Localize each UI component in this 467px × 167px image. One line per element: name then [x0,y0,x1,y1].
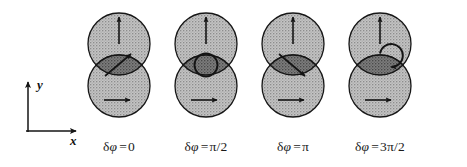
panel-2-caption: δφ=π/2 [185,140,228,154]
panel-1-caption: δφ=0 [103,140,135,154]
panel-1-caption-value: 0 [128,139,135,154]
panel-1-group [88,13,150,117]
panel-4-caption-eq: = [370,139,380,154]
panel-1-caption-eq: = [118,139,128,154]
panel-2-caption-value: π/2 [210,139,228,154]
panel-2-caption-delta: δ [185,139,192,154]
panel-4-caption-delta: δ [355,139,362,154]
panel-3-caption-value: π [302,139,309,154]
panel-4-caption: δφ=3π/2 [355,140,405,154]
panel-1-caption-delta: δ [103,139,110,154]
panel-3-caption: δφ=π [277,140,309,154]
panel-4-caption-phi: φ [362,139,371,154]
panel-3-caption-eq: = [292,139,302,154]
panel-4-group [349,13,411,117]
panel-2-caption-eq: = [200,139,210,154]
panel-3-caption-delta: δ [277,139,284,154]
x-axis-label: x [70,134,77,147]
panel-3-caption-phi: φ [284,139,293,154]
panel-3-group [262,13,324,117]
panel-4-caption-value: 3π/2 [380,139,405,154]
panel-2-group [175,13,237,117]
panel-1-caption-phi: φ [110,139,119,154]
y-axis-label: y [37,78,43,91]
panel-2-caption-phi: φ [191,139,200,154]
polarization-superposition-figure: y x δφ=0 δφ=π/2 δφ=π δφ=3π/2 [0,0,467,167]
